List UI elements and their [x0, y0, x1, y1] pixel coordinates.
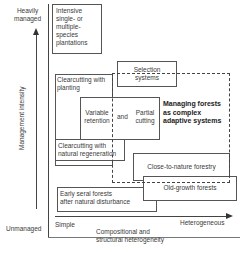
clearcut-natural-line2: natural regeneration — [58, 150, 116, 158]
clearcut-natural-label: Clearcutting with natural regeneration — [58, 142, 116, 158]
x-axis-left-label: Simple — [55, 221, 75, 229]
box-complex-adaptive-dashed — [112, 73, 230, 183]
clearcut-planting-line2: planting — [57, 84, 105, 92]
intensive-line3: multiple- — [56, 23, 98, 31]
y-axis-bottom-label: Unmanaged — [6, 225, 41, 233]
frame-vertical-line — [48, 4, 49, 238]
clearcut-planting-line1: Clearcutting with — [57, 76, 105, 84]
variable-line1: Variable — [82, 109, 112, 117]
x-title-line2: structural heterogeneity — [96, 236, 164, 244]
box-intensive-plantations: Intensive single- or multiple- species p… — [52, 4, 102, 54]
y-axis-arrow-line — [36, 32, 37, 209]
complex-line2: as complex — [163, 109, 221, 118]
clearcut-natural-line1: Clearcutting with — [58, 142, 116, 150]
clearcut-planting-label: Clearcutting with planting — [57, 76, 105, 92]
complex-adaptive-label: Managing forests as complex adaptive sys… — [163, 100, 221, 126]
y-top-label-line2: managed — [14, 15, 41, 23]
intensive-line5: plantations — [56, 39, 98, 47]
x-axis-arrowhead-icon — [226, 213, 233, 219]
x-title-line1: Compositional and — [96, 228, 164, 236]
y-axis-top-label: Heavily managed — [14, 7, 41, 23]
x-axis-title: Compositional and structural heterogenei… — [96, 228, 164, 244]
y-axis-arrowhead-icon — [33, 28, 39, 35]
intensive-line1: Intensive — [56, 7, 98, 15]
early-seral-line1: Early seral forests — [60, 190, 130, 198]
early-seral-label: Early seral forests after natural distur… — [60, 190, 130, 206]
old-growth-label: Old-growth forests — [143, 184, 237, 192]
y-axis-title: Management intensity — [18, 90, 26, 150]
variable-line2: retention — [82, 117, 112, 125]
y-top-label-line1: Heavily — [14, 7, 41, 15]
intensive-line4: species — [56, 31, 98, 39]
variable-retention-label: Variable retention — [82, 109, 112, 125]
complex-line3: adaptive systems — [163, 117, 221, 126]
early-seral-line2: after natural disturbance — [60, 198, 130, 206]
x-axis-arrow-line — [55, 216, 227, 217]
intensive-line2: single- or — [56, 15, 98, 23]
complex-line1: Managing forests — [163, 100, 221, 109]
x-axis-right-label: Heterogeneous — [180, 219, 224, 227]
